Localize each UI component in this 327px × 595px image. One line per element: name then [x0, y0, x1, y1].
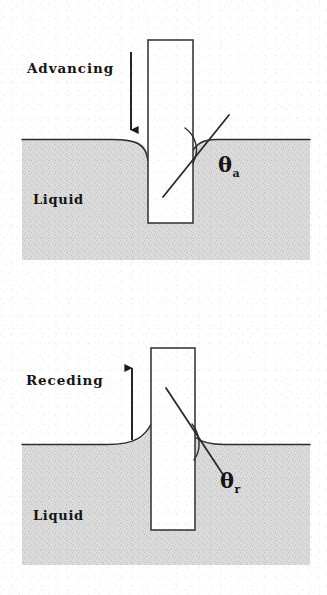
liquid-label-advancing: Liquid [33, 192, 84, 207]
diagram-canvas [0, 0, 327, 595]
contact-angle-label-receding: θr [220, 468, 240, 496]
theta-subscript-receding: r [235, 483, 241, 496]
theta-subscript-advancing: a [233, 167, 240, 180]
contact-angle-label-advancing: θa [218, 152, 240, 180]
liquid-label-receding: Liquid [33, 508, 84, 523]
theta-symbol-advancing: θ [218, 152, 233, 177]
contact-angle-figure: Advancing Liquid θa Receding Liquid θr [0, 0, 327, 595]
motion-label-receding: Receding [26, 372, 104, 388]
meniscus-line-receding-right [195, 437, 310, 445]
motion-label-advancing: Advancing [27, 60, 114, 76]
plate-receding [151, 348, 195, 530]
theta-symbol-receding: θ [220, 468, 235, 493]
plate-advancing [148, 40, 193, 223]
